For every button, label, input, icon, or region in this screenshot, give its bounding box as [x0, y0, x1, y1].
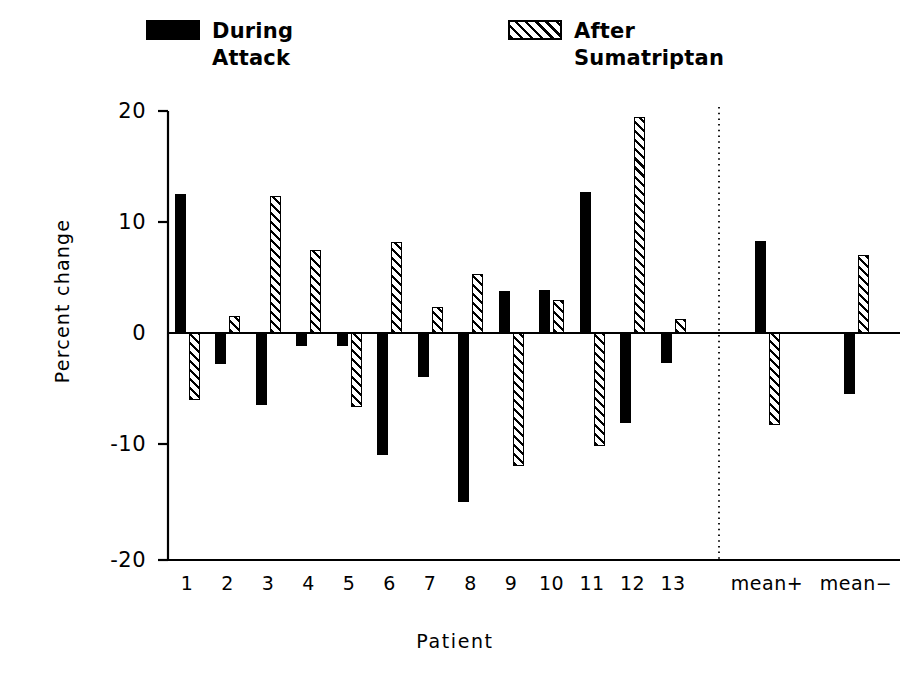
x-tick-label-8: 8 — [464, 572, 477, 594]
x-tick-label-9: 9 — [505, 572, 518, 594]
x-tick-label-11: 11 — [579, 572, 604, 594]
bar-during-attack-mean− — [844, 333, 855, 394]
x-tick-label-mean−: mean− — [820, 572, 892, 594]
x-axis-title: Patient — [0, 630, 910, 652]
y-axis-ticks — [158, 111, 168, 560]
bar-after-sumatriptan-4 — [310, 250, 321, 333]
bar-during-attack-6 — [377, 333, 388, 455]
y-tick-label-10: 10 — [86, 210, 146, 234]
bar-during-attack-8 — [458, 333, 469, 502]
bar-during-attack-1 — [175, 194, 186, 333]
y-tick-label-0: 0 — [86, 321, 146, 345]
bar-after-sumatriptan-11 — [594, 333, 605, 446]
x-tick-label-13: 13 — [660, 572, 685, 594]
x-tick-label-5: 5 — [343, 572, 356, 594]
bar-after-sumatriptan-13 — [675, 319, 686, 333]
x-tick-label-2: 2 — [221, 572, 234, 594]
y-axis-title: Percent change — [51, 191, 73, 411]
bar-after-sumatriptan-2 — [229, 316, 240, 333]
bar-during-attack-4 — [296, 333, 307, 346]
bar-after-sumatriptan-3 — [270, 196, 281, 333]
bar-during-attack-2 — [215, 333, 226, 364]
x-tick-label-mean+: mean+ — [731, 572, 803, 594]
x-tick-label-3: 3 — [262, 572, 275, 594]
bar-after-sumatriptan-9 — [513, 333, 524, 466]
bar-after-sumatriptan-8 — [472, 274, 483, 333]
bar-after-sumatriptan-6 — [391, 242, 402, 333]
bar-chart: 20 10 0 -10 -20 Percent change Patient 1… — [0, 0, 910, 676]
bar-during-attack-9 — [499, 291, 510, 333]
x-tick-label-1: 1 — [181, 572, 194, 594]
bar-after-sumatriptan-12 — [634, 117, 645, 333]
bar-during-attack-11 — [580, 192, 591, 333]
bar-during-attack-mean+ — [755, 241, 766, 333]
x-tick-label-4: 4 — [302, 572, 315, 594]
bar-during-attack-7 — [418, 333, 429, 377]
bar-during-attack-10 — [539, 290, 550, 333]
bar-after-sumatriptan-mean− — [858, 255, 869, 333]
x-tick-label-6: 6 — [383, 572, 396, 594]
bar-after-sumatriptan-10 — [553, 300, 564, 333]
bar-during-attack-13 — [661, 333, 672, 363]
y-tick-label-neg10: -10 — [86, 432, 146, 456]
bar-during-attack-3 — [256, 333, 267, 405]
y-tick-label-20: 20 — [86, 99, 146, 123]
bar-after-sumatriptan-1 — [189, 333, 200, 400]
x-tick-label-12: 12 — [620, 572, 645, 594]
x-tick-label-10: 10 — [539, 572, 564, 594]
bar-during-attack-12 — [620, 333, 631, 423]
x-tick-label-7: 7 — [424, 572, 437, 594]
bar-during-attack-5 — [337, 333, 348, 346]
bar-after-sumatriptan-mean+ — [769, 333, 780, 425]
bar-after-sumatriptan-7 — [432, 307, 443, 333]
bar-after-sumatriptan-5 — [351, 333, 362, 407]
y-tick-label-neg20: -20 — [86, 548, 146, 572]
